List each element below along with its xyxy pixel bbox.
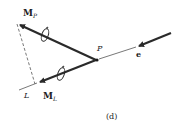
label-unit-e: e [136,50,141,58]
label-mp: MP [23,9,37,19]
dashed-projection-line [17,24,35,84]
label-mp-sub: P [33,12,37,19]
axis-l-line [19,83,37,90]
point-p-dot [95,58,98,61]
figure-caption: (d) [106,113,117,121]
moment-mp-arrow [20,25,96,60]
label-mp-main: M [23,8,33,18]
label-ml: ML [43,92,57,102]
axis-e-line [99,47,136,59]
label-axis-l: L [24,92,29,100]
label-ml-sub: L [53,95,57,102]
label-point-p: P [97,45,102,53]
mp-rotation-icon [40,28,50,42]
moment-ml-arrow [40,60,96,82]
moment-vector-diagram [0,0,186,130]
unit-vector-e-arrow [139,33,171,46]
label-ml-main: M [43,91,53,101]
